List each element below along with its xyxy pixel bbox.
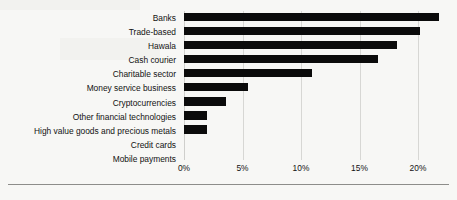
bar	[184, 27, 420, 36]
category-axis: BanksTrade-basedHawalaCash courierCharit…	[0, 11, 180, 160]
x-tick-label: 20%	[410, 163, 427, 173]
bar-row	[184, 53, 418, 67]
bar-row	[184, 25, 418, 39]
bar-row	[184, 67, 418, 81]
bar-row	[184, 138, 418, 152]
bar	[184, 83, 248, 92]
category-label: Cryptocurrencies	[0, 96, 180, 110]
value-axis: 0%5%10%15%20%	[184, 163, 418, 177]
x-tick-label: 15%	[351, 163, 368, 173]
bar	[184, 41, 397, 50]
bar-series	[184, 11, 418, 140]
bar-row	[184, 110, 418, 124]
chart-screenshot: BanksTrade-basedHawalaCash courierCharit…	[0, 0, 457, 200]
bar-row	[184, 81, 418, 95]
x-tick-label: 0%	[178, 163, 190, 173]
category-label: Hawala	[0, 39, 180, 53]
x-tick-label: 10%	[293, 163, 310, 173]
bar	[184, 69, 312, 78]
category-label: Money service business	[0, 81, 180, 95]
bar-row	[184, 124, 418, 138]
footer-rule	[8, 184, 449, 185]
bar-row	[184, 11, 418, 25]
bar-row	[184, 96, 418, 110]
category-label: Other financial technologies	[0, 110, 180, 124]
category-label: High value goods and precious metals	[0, 124, 180, 138]
bar	[184, 111, 207, 120]
category-label: Trade-based	[0, 25, 180, 39]
category-label: Credit cards	[0, 138, 180, 152]
bar	[184, 55, 378, 64]
category-label: Banks	[0, 11, 180, 25]
bar	[184, 13, 439, 22]
category-label: Charitable sector	[0, 67, 180, 81]
bar	[184, 97, 226, 106]
bar-chart: BanksTrade-basedHawalaCash courierCharit…	[0, 0, 457, 178]
bar-row	[184, 39, 418, 53]
category-label: Cash courier	[0, 53, 180, 67]
x-tick-label: 5%	[236, 163, 248, 173]
plot-area	[184, 11, 418, 160]
bar	[184, 125, 207, 134]
category-label: Mobile payments	[0, 152, 180, 166]
